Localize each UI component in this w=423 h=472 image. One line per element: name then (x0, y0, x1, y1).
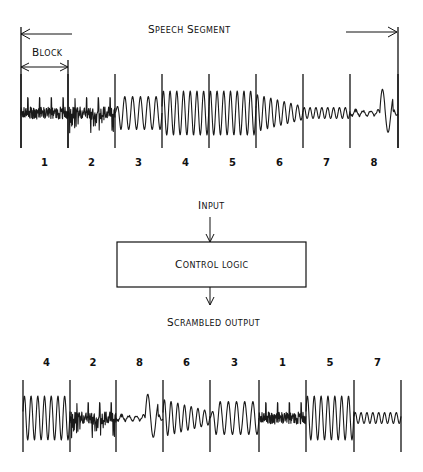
block-number: 8 (371, 157, 378, 168)
waveform-block-7 (354, 413, 401, 424)
scrambled-output-label: SCRAMBLED OUTPUT (167, 316, 260, 328)
original-block-numbers: 12345678 (41, 157, 378, 168)
block-number: 3 (231, 357, 238, 368)
waveform-block-6 (163, 400, 210, 436)
block-number: 2 (90, 357, 97, 368)
block-number: 2 (88, 157, 95, 168)
block-number: 1 (41, 157, 48, 168)
block-number: 5 (229, 157, 236, 168)
block-number: 7 (374, 357, 381, 368)
waveform-block-4 (162, 91, 209, 135)
waveform-block-1 (21, 98, 68, 119)
block-number: 4 (182, 157, 189, 168)
waveform-block-5 (209, 91, 256, 135)
input-label: INPUT (198, 199, 225, 211)
waveform-block-1 (259, 403, 306, 424)
block-annotation: BLOCK (21, 46, 68, 148)
waveform-block-2 (70, 403, 116, 438)
waveform-block-3 (115, 97, 162, 130)
waveform-block-8 (116, 394, 163, 437)
speech-segment-label: SPEECH SEGMENT (148, 23, 230, 35)
original-speech-waveform (21, 74, 398, 148)
waveform-block-6 (256, 95, 303, 131)
waveform-block-2 (68, 98, 115, 133)
speech-scrambling-diagram: SPEECH SEGMENT BLOCK 12345678 INPUT CONT… (0, 0, 423, 472)
scrambled-speech-waveform (23, 380, 401, 452)
waveform-block-7 (303, 108, 350, 119)
waveform-block-8 (350, 89, 398, 132)
block-number: 1 (279, 357, 286, 368)
block-number: 3 (135, 157, 142, 168)
block-number: 8 (136, 357, 143, 368)
control-logic-section: INPUT CONTROL LOGIC SCRAMBLED OUTPUT (117, 199, 306, 328)
block-number: 7 (323, 157, 330, 168)
block-number: 4 (43, 357, 50, 368)
block-number: 6 (183, 357, 190, 368)
block-number: 6 (276, 157, 283, 168)
waveform-block-5 (306, 396, 354, 440)
waveform-block-3 (210, 402, 259, 435)
block-label: BLOCK (32, 46, 63, 58)
block-number: 5 (327, 357, 334, 368)
waveform-block-4 (23, 396, 70, 440)
scrambled-block-numbers: 42863157 (43, 357, 381, 368)
